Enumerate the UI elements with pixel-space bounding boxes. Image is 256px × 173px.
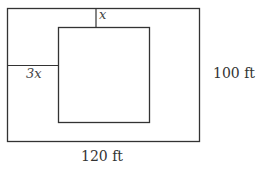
width-label: 120 ft xyxy=(81,148,123,164)
left-gap-label: 3x xyxy=(26,66,42,81)
top-gap-label: x xyxy=(99,7,106,22)
inner-rectangle xyxy=(59,28,150,123)
height-label: 100 ft xyxy=(213,65,255,81)
diagram-canvas xyxy=(0,0,256,173)
